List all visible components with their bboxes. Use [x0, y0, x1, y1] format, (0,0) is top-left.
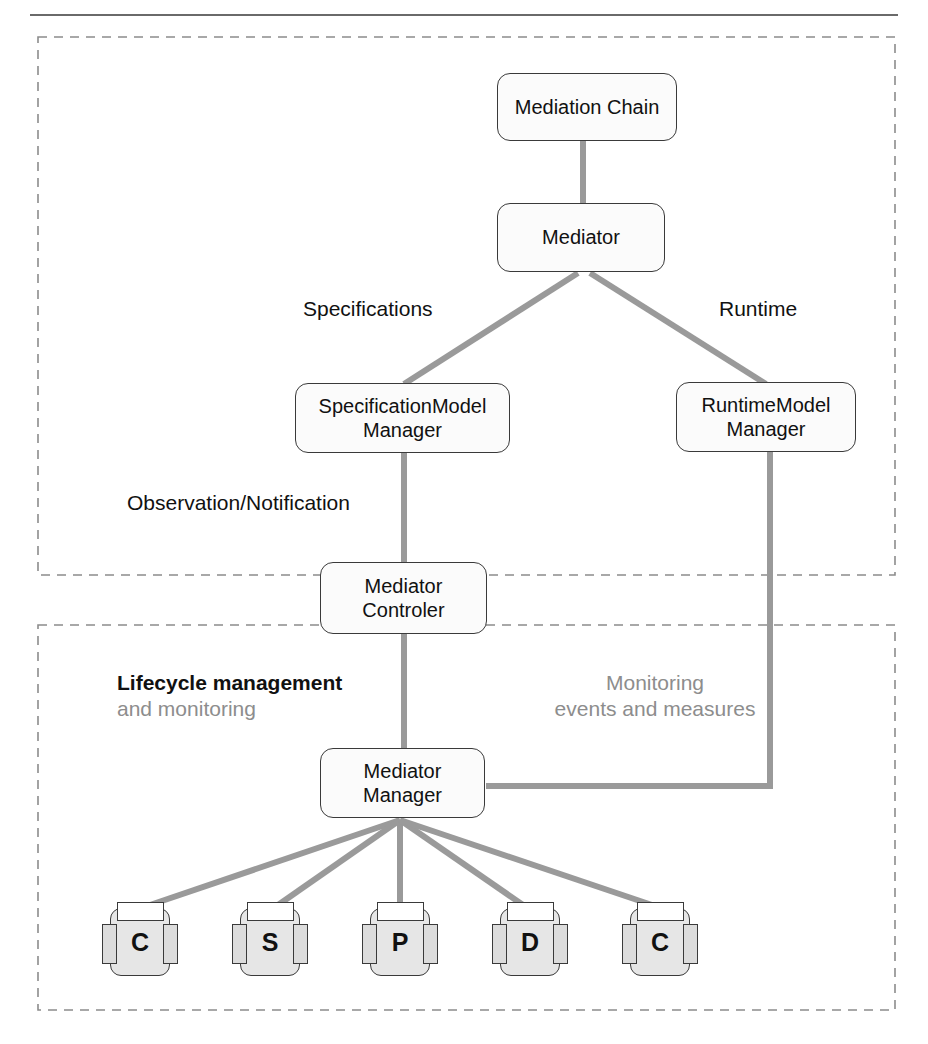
component-label: C: [110, 908, 170, 976]
node-runtime-model-manager[interactable]: RuntimeModel Manager: [676, 382, 856, 452]
edge-manager-to-component-c-1: [150, 820, 400, 905]
node-mediation-chain-label: Mediation Chain: [509, 95, 666, 119]
component-label: S: [240, 908, 300, 976]
edge-label-monitoring: Monitoring events and measures: [535, 670, 775, 723]
edge-manager-to-component-c-2: [400, 820, 652, 905]
component-c-2[interactable]: C: [622, 902, 698, 980]
component-p[interactable]: P: [362, 902, 438, 980]
node-mediator-controler[interactable]: Mediator Controler: [320, 562, 487, 634]
controler-line-2: Controler: [362, 598, 444, 622]
lifecycle-strong-text: Lifecycle management: [117, 671, 342, 694]
edge-label-lifecycle: Lifecycle management and monitoring: [117, 670, 342, 723]
node-runtime-model-manager-label: RuntimeModel Manager: [696, 393, 837, 442]
node-mediator-controler-label: Mediator Controler: [356, 574, 450, 623]
specmodel-line-2: Manager: [319, 418, 487, 442]
runtimemodel-line-1: RuntimeModel: [702, 394, 831, 416]
lifecycle-soft-text: and monitoring: [117, 697, 256, 720]
component-label: C: [630, 908, 690, 976]
top-horizontal-rule: [30, 14, 898, 16]
edge-manager-to-component-d: [400, 820, 523, 905]
edge-manager-to-component-s: [278, 820, 400, 905]
controler-line-1: Mediator: [365, 575, 443, 597]
edge-label-observation-notification: Observation/Notification: [127, 490, 350, 516]
diagram-canvas: Mediation Chain Mediator SpecificationMo…: [0, 0, 928, 1044]
component-label: D: [500, 908, 560, 976]
runtimemodel-line-2: Manager: [702, 417, 831, 441]
component-s[interactable]: S: [232, 902, 308, 980]
node-mediator-manager[interactable]: Mediator Manager: [320, 748, 485, 818]
monitoring-line-1: Monitoring: [606, 671, 704, 694]
node-mediation-chain[interactable]: Mediation Chain: [497, 73, 677, 141]
edge-label-specifications: Specifications: [303, 296, 433, 322]
component-c-1[interactable]: C: [102, 902, 178, 980]
manager-line-2: Manager: [363, 783, 442, 807]
node-specification-model-manager-label: SpecificationModel Manager: [313, 394, 493, 443]
node-mediator-manager-label: Mediator Manager: [357, 759, 448, 808]
node-mediator-label: Mediator: [536, 225, 626, 249]
component-d[interactable]: D: [492, 902, 568, 980]
edge-label-runtime: Runtime: [719, 296, 797, 322]
edge-mediator-to-runtimemodel: [590, 273, 766, 384]
manager-line-1: Mediator: [364, 760, 442, 782]
component-label: P: [370, 908, 430, 976]
specmodel-line-1: SpecificationModel: [319, 395, 487, 417]
edge-runtimemodel-to-manager: [486, 452, 770, 786]
node-specification-model-manager[interactable]: SpecificationModel Manager: [295, 383, 510, 453]
node-mediator[interactable]: Mediator: [497, 203, 665, 272]
connector-layer: [0, 0, 928, 1044]
edge-mediator-to-specmodel: [404, 273, 578, 384]
monitoring-line-2: events and measures: [555, 697, 756, 720]
